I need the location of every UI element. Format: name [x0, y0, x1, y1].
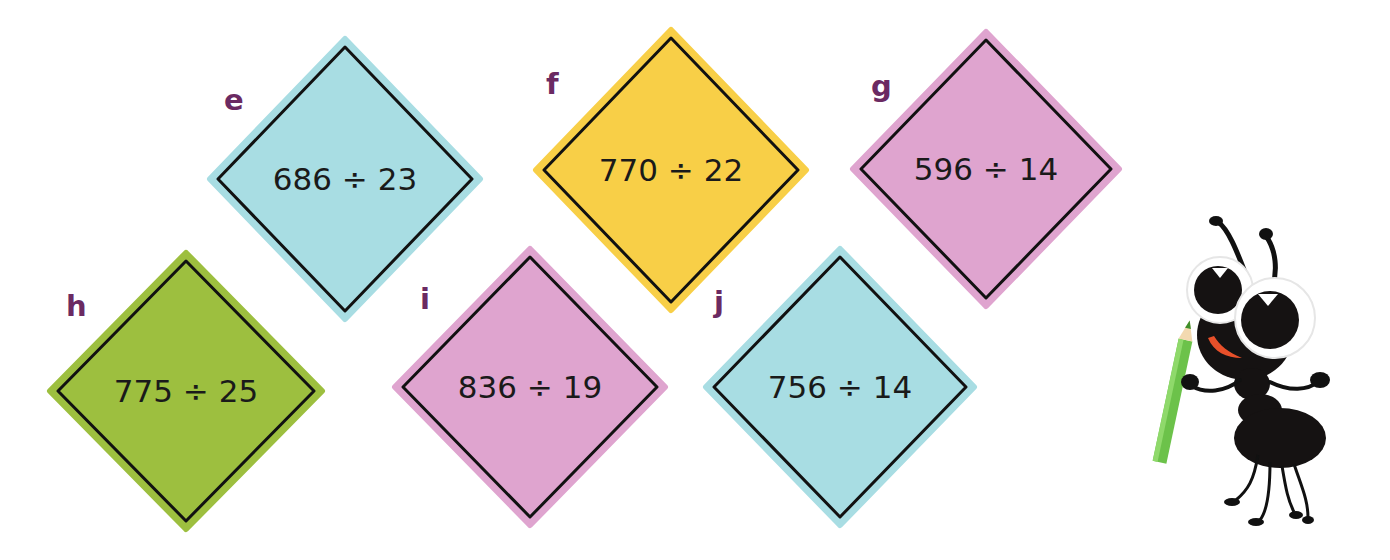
- problem-label-i: i: [420, 285, 430, 314]
- problem-expression: 836 ÷ 19: [395, 249, 665, 525]
- problem-card-h: 775 ÷ 25: [50, 253, 322, 529]
- problem-label-h: h: [66, 292, 87, 321]
- problem-label-f: f: [546, 70, 559, 99]
- problem-expression: 775 ÷ 25: [50, 253, 322, 529]
- problem-label-g: g: [871, 72, 892, 101]
- problem-label-e: e: [224, 86, 244, 115]
- worksheet-page: 686 ÷ 23 e 770 ÷ 22 f 596 ÷ 14 g 775 ÷ 2…: [0, 0, 1390, 560]
- ant-icon: [1130, 170, 1390, 550]
- ant-mascot-illustration: [1130, 170, 1390, 550]
- problem-label-j: j: [714, 288, 724, 317]
- pencil-icon: [1153, 319, 1197, 464]
- problem-expression: 756 ÷ 14: [706, 249, 974, 525]
- problem-card-i: 836 ÷ 19: [395, 249, 665, 525]
- problem-card-j: 756 ÷ 14: [706, 249, 974, 525]
